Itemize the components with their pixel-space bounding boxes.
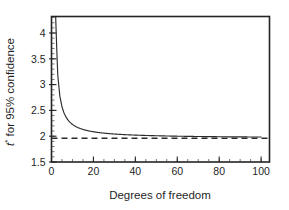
y-tick-label: 2.5 [31, 104, 46, 116]
x-tick-label: 100 [252, 165, 270, 177]
y-axis-label-rest: for 95% confidence [4, 38, 16, 140]
t-star-vs-degrees-of-freedom-chart: 020406080100 1.522.533.54 Degrees of fre… [0, 0, 289, 210]
y-tick-label: 4 [40, 27, 46, 39]
x-axis-label: Degrees of freedom [109, 189, 211, 201]
y-tick-label: 3.5 [31, 53, 46, 65]
x-tick-label: 80 [213, 165, 225, 177]
x-tick-label: 40 [130, 165, 142, 177]
x-tick-label: 0 [49, 165, 55, 177]
y-axis-label: t* for 95% confidence [3, 38, 17, 146]
y-tick-label: 2 [40, 130, 46, 142]
x-tick-label: 60 [171, 165, 183, 177]
x-tick-label: 20 [88, 165, 100, 177]
chart-figure: 020406080100 1.522.533.54 Degrees of fre… [0, 0, 289, 210]
x-axis-minor-ticks [52, 159, 262, 162]
y-tick-label: 1.5 [31, 156, 46, 168]
y-tick-label: 3 [40, 78, 46, 90]
